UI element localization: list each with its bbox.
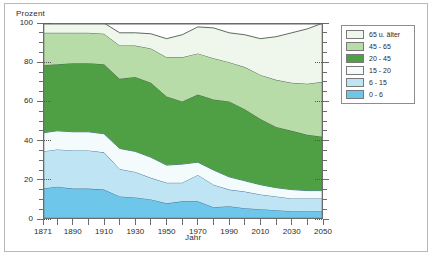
x-tick-label: 1930 [120, 227, 150, 236]
axis-tick [39, 150, 43, 151]
axis-tick [166, 219, 167, 225]
axis-guide [44, 101, 51, 103]
axis-tick [323, 150, 327, 151]
legend-swatch [346, 54, 364, 63]
axis-tick [39, 189, 43, 190]
legend-label: 0 - 6 [369, 91, 383, 98]
legend-item: 6 - 15 [346, 77, 411, 88]
axis-tick [104, 219, 105, 225]
axis-tick [323, 130, 327, 131]
axis-tick [39, 170, 43, 171]
legend-swatch [346, 78, 364, 87]
axis-tick [88, 219, 89, 225]
axis-guide [315, 62, 322, 64]
axis-tick [37, 179, 43, 180]
axis-guide [44, 62, 51, 64]
axis-tick [323, 219, 329, 220]
axis-tick [323, 199, 327, 200]
axis-tick [39, 81, 43, 82]
stacked-area-plot [43, 23, 323, 219]
axis-tick [57, 219, 58, 225]
axis-tick [72, 219, 73, 225]
x-tick-label: 1970 [183, 227, 213, 236]
y-tick-label: 60 [11, 96, 33, 105]
axis-tick [119, 219, 120, 225]
y-tick-label: 40 [11, 136, 33, 145]
axis-tick [323, 81, 327, 82]
axis-tick [323, 121, 327, 122]
legend-swatch [346, 30, 364, 39]
axis-tick [276, 219, 277, 225]
axis-tick [323, 189, 327, 190]
axis-tick [39, 42, 43, 43]
axis-tick [307, 219, 308, 225]
axis-tick [323, 52, 327, 53]
x-tick-label: 2050 [308, 227, 338, 236]
axis-tick [39, 111, 43, 112]
axis-tick [323, 91, 327, 92]
axis-tick [39, 160, 43, 161]
axis-tick [323, 179, 329, 180]
axis-tick [39, 52, 43, 53]
x-tick-label: 1910 [89, 227, 119, 236]
axis-tick [197, 219, 198, 225]
y-tick-label: 80 [11, 57, 33, 66]
axis-tick [135, 219, 136, 225]
legend-item: 65 u. älter [346, 29, 411, 40]
axis-tick [323, 23, 329, 24]
axis-tick [229, 219, 230, 225]
x-tick-label: 1871 [28, 227, 58, 236]
axis-tick [323, 209, 327, 210]
axis-tick [39, 209, 43, 210]
axis-tick [244, 219, 245, 225]
axis-tick [43, 219, 44, 225]
axis-tick [37, 62, 43, 63]
axis-guide [44, 23, 51, 25]
axis-tick [323, 72, 327, 73]
legend-label: 15 - 20 [369, 67, 391, 74]
axis-tick [39, 130, 43, 131]
legend-label: 6 - 15 [369, 79, 387, 86]
axis-tick [39, 91, 43, 92]
y-tick-label: 0 [11, 214, 33, 223]
axis-guide [315, 140, 322, 142]
axis-tick [37, 140, 43, 141]
axis-tick [37, 23, 43, 24]
axis-tick [323, 140, 329, 141]
legend-item: 45 - 65 [346, 41, 411, 52]
axis-tick [37, 101, 43, 102]
legend-swatch [346, 90, 364, 99]
axis-tick [323, 111, 327, 112]
axis-guide [44, 219, 51, 221]
axis-tick [323, 170, 327, 171]
axis-tick [323, 101, 329, 102]
axis-guide [44, 179, 51, 181]
legend-label: 65 u. älter [369, 31, 400, 38]
axis-tick [182, 219, 183, 225]
axis-guide [315, 23, 322, 25]
axis-tick [39, 72, 43, 73]
chart-figure: Prozent Jahr 020406080100 18711890191019… [4, 3, 428, 252]
axis-tick [323, 62, 329, 63]
legend-swatch [346, 42, 364, 51]
axis-tick [323, 160, 327, 161]
legend-item: 15 - 20 [346, 65, 411, 76]
y-tick-label: 20 [11, 175, 33, 184]
y-tick-label: 100 [11, 18, 33, 27]
chart-legend: 65 u. älter45 - 6520 - 4515 - 206 - 150 … [341, 25, 415, 104]
legend-item: 20 - 45 [346, 53, 411, 64]
axis-tick [150, 219, 151, 225]
axis-tick [260, 219, 261, 225]
axis-tick [323, 42, 327, 43]
legend-label: 20 - 45 [369, 55, 391, 62]
axis-tick [39, 199, 43, 200]
axis-guide [315, 219, 322, 221]
axis-guide [44, 140, 51, 142]
x-tick-label: 2010 [245, 227, 275, 236]
axis-tick [323, 32, 327, 33]
axis-tick [39, 121, 43, 122]
x-tick-label: 1890 [58, 227, 88, 236]
legend-swatch [346, 66, 364, 75]
axis-tick [323, 219, 324, 225]
axis-tick [39, 32, 43, 33]
